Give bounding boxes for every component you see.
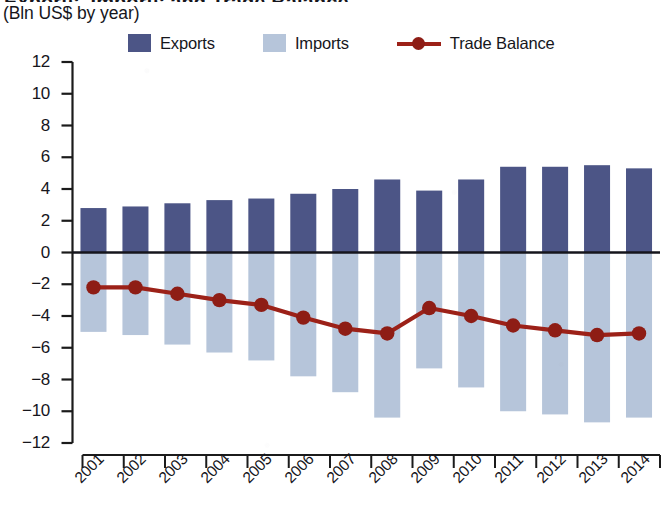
- x-axis-labels: 2001200220032004200520062007200820092010…: [0, 0, 668, 506]
- x-tick-label-2007: 2007: [323, 450, 360, 487]
- plot-area: 121086420−2−4−6−8−10−12 2001200220032004…: [0, 0, 668, 506]
- x-tick-label-2002: 2002: [113, 450, 150, 487]
- x-tick-label-2001: 2001: [71, 450, 108, 487]
- x-tick-label-2009: 2009: [407, 450, 444, 487]
- x-tick-label-2011: 2011: [491, 451, 527, 487]
- x-tick-label-2014: 2014: [617, 450, 654, 487]
- x-tick-label-2004: 2004: [197, 450, 234, 487]
- x-tick-label-2010: 2010: [449, 450, 486, 487]
- x-tick-label-2008: 2008: [365, 450, 402, 487]
- x-tick-label-2012: 2012: [533, 450, 570, 487]
- x-tick-label-2003: 2003: [155, 450, 192, 487]
- x-tick-label-2013: 2013: [575, 450, 612, 487]
- x-tick-label-2005: 2005: [239, 450, 276, 487]
- x-tick-label-2006: 2006: [281, 450, 318, 487]
- trade-chart: Exports, Imports and Trade Balance (Bln …: [0, 0, 668, 506]
